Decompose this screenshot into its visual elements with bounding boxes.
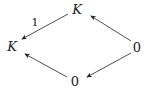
edge-label-top-left: 1 — [32, 17, 39, 28]
arrow-bottom-to-left — [25, 54, 67, 77]
arrow-top-to-left — [22, 14, 68, 39]
node-bottom-zero: 0 — [71, 75, 79, 88]
node-top-k: K — [72, 3, 82, 16]
node-left-k: K — [7, 40, 17, 53]
node-right-zero: 0 — [133, 41, 141, 54]
arrow-right-to-bottom — [87, 53, 131, 77]
arrow-right-to-top — [91, 16, 131, 41]
